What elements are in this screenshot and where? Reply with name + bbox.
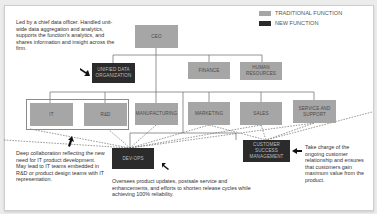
- node-human-resources: HUMAN RESOURCES: [240, 62, 282, 80]
- node-service-support-label: SERVICE AND SUPPORT: [294, 106, 335, 118]
- node-dev-ops: DEV-OPS: [112, 148, 154, 169]
- legend-swatch-new: [259, 21, 271, 26]
- node-finance-label: FINANCE: [199, 68, 220, 74]
- node-ceo: CEO: [135, 25, 178, 48]
- legend-new: NEW FUNCTION: [259, 20, 319, 26]
- node-it: IT: [30, 103, 73, 126]
- node-dev-ops-label: DEV-OPS: [122, 156, 143, 162]
- node-marketing-label: MARKETING: [195, 111, 223, 117]
- node-service-and-support: SERVICE AND SUPPORT: [293, 100, 336, 123]
- node-customer-success-management: CUSTOMER SUCCESS MANAGEMENT: [243, 140, 290, 162]
- node-ceo-label: CEO: [151, 34, 161, 40]
- node-unified-data-label: UNIFIED DATA ORGANIZATION: [93, 67, 134, 79]
- legend-label-traditional: TRADITIONAL FUNCTION: [275, 10, 342, 16]
- node-manufacturing-label: MANUFACTURING: [136, 111, 177, 117]
- node-finance: FINANCE: [188, 62, 230, 79]
- annotation-it-rd: Deep collaboration reflecting the new ne…: [16, 150, 106, 183]
- node-sales-label: SALES: [253, 111, 268, 117]
- node-unified-data-organization: UNIFIED DATA ORGANIZATION: [92, 63, 135, 83]
- annotation-dev-ops: Oversees product updates, postsale servi…: [112, 178, 262, 198]
- legend-swatch-traditional: [259, 11, 271, 16]
- legend-label-new: NEW FUNCTION: [275, 20, 319, 26]
- node-customer-success-label: CUSTOMER SUCCESS MANAGEMENT: [244, 142, 289, 160]
- node-human-resources-label: HUMAN RESOURCES: [241, 65, 281, 77]
- node-manufacturing: MANUFACTURING: [135, 103, 178, 125]
- node-marketing: MARKETING: [188, 102, 230, 125]
- annotation-unified-data: Led by a chief data officer. Handled uni…: [16, 19, 116, 52]
- node-rd: R&D: [84, 103, 127, 126]
- legend-traditional: TRADITIONAL FUNCTION: [259, 10, 342, 16]
- annotation-customer-success: Take charge of the ongoing customer rela…: [305, 144, 369, 184]
- node-sales: SALES: [240, 102, 282, 125]
- node-it-label: IT: [49, 112, 53, 118]
- node-rd-label: R&D: [101, 112, 111, 118]
